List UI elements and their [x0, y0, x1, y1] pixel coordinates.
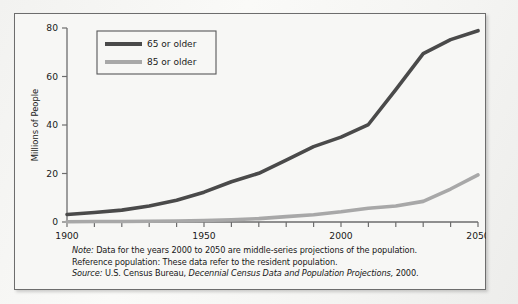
- source-keyword: Source:: [72, 268, 102, 278]
- legend-label-0: 65 or older: [147, 39, 197, 49]
- figure-container: 020406080 1900195020002050 Millions of P…: [0, 0, 518, 304]
- source-year: 2000.: [396, 268, 419, 278]
- footnotes: Note: Data for the years 2000 to 2050 ar…: [72, 245, 472, 280]
- y-axis-title: Millions of People: [30, 89, 40, 162]
- x-tick-label-2050: 2050: [466, 230, 486, 241]
- note-line-note: Note: Data for the years 2000 to 2050 ar…: [72, 245, 472, 257]
- note-text: Data for the years 2000 to 2050 are midd…: [96, 245, 417, 255]
- y-tick-label-20: 20: [46, 168, 58, 179]
- y-tick-label-40: 40: [46, 119, 58, 130]
- source-agency: U.S. Census Bureau,: [105, 268, 186, 278]
- note-keyword: Note:: [72, 245, 94, 255]
- y-axis-tick-labels: 020406080: [46, 22, 58, 227]
- y-tick-label-60: 60: [46, 71, 58, 82]
- x-tick-label-1950: 1950: [192, 230, 216, 241]
- x-axis-tick-labels: 1900195020002050: [55, 230, 486, 241]
- y-axis-ticks: [62, 28, 67, 222]
- legend: 65 or older85 or older: [97, 31, 216, 74]
- note-line-source: Source: U.S. Census Bureau, Decennial Ce…: [72, 268, 472, 280]
- legend-box: [97, 31, 216, 74]
- x-tick-label-1900: 1900: [55, 230, 79, 241]
- y-tick-label-0: 0: [52, 216, 58, 227]
- note-line-reference: Reference population: These data refer t…: [72, 257, 472, 269]
- series-line-1: [67, 175, 478, 222]
- source-title: Decennial Census Data and Population Pro…: [189, 268, 394, 278]
- y-tick-label-80: 80: [46, 22, 58, 33]
- reference-text: Reference population: These data refer t…: [72, 257, 337, 267]
- legend-label-1: 85 or older: [147, 57, 197, 67]
- x-tick-label-2000: 2000: [329, 230, 353, 241]
